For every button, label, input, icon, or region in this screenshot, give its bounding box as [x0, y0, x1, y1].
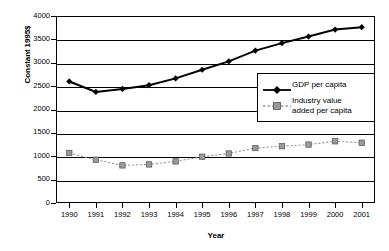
gridline [57, 64, 374, 65]
y-tick-label: 1500 [8, 128, 50, 136]
x-tick-mark [229, 203, 230, 208]
y-tick-mark [51, 203, 56, 204]
x-tick-mark [96, 203, 97, 208]
y-tick-label: 0 [8, 199, 50, 207]
chart-figure: Constant 1995$ 0500100015002000250030003… [0, 0, 389, 251]
x-axis-title: Year [56, 231, 376, 240]
x-tick-mark [122, 203, 123, 208]
y-tick-label: 1000 [8, 152, 50, 160]
x-tick-mark [202, 203, 203, 208]
x-tick-mark [69, 203, 70, 208]
x-tick-mark [255, 203, 256, 208]
gridline [57, 134, 374, 135]
gridline [57, 181, 374, 182]
y-tick-label: 2000 [8, 105, 50, 113]
gridline [57, 157, 374, 158]
gridline [57, 40, 374, 41]
x-tick-mark [176, 203, 177, 208]
y-tick-label: 2500 [8, 82, 50, 90]
y-tick-label: 3000 [8, 58, 50, 66]
x-tick-mark [149, 203, 150, 208]
x-tick-mark [335, 203, 336, 208]
chart-legend: GDP per capita Industry valueadded per c… [257, 73, 375, 122]
legend-key-square-icon [262, 97, 292, 107]
x-tick-label: 2001 [342, 210, 382, 219]
legend-item-gdp-per-capita: GDP per capita [262, 80, 347, 91]
x-tick-mark [362, 203, 363, 208]
legend-item-industry-value-added: Industry valueadded per capita [262, 96, 352, 116]
legend-label-industry: Industry valueadded per capita [292, 96, 352, 116]
x-tick-mark [282, 203, 283, 208]
legend-label-gdp: GDP per capita [292, 80, 347, 90]
y-tick-label: 4000 [8, 12, 50, 20]
y-tick-label: 500 [8, 175, 50, 183]
x-tick-mark [309, 203, 310, 208]
y-tick-label: 3500 [8, 35, 50, 43]
legend-key-diamond-icon [262, 81, 292, 91]
